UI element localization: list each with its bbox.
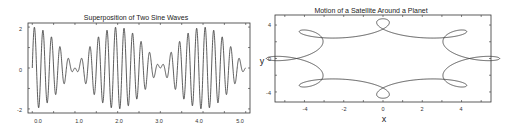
y-tick: 2 [19,26,22,32]
x-tick: 4.0 [195,118,203,124]
x-tick: 3.0 [155,118,163,124]
x-tick: 0.0 [34,118,42,124]
x-tick: 5.0 [236,118,244,124]
orbit-plot-frame [275,15,491,102]
figure: Superposition of Two Sine Waves 0.0 1.0 … [0,0,510,132]
sine-chart: Superposition of Two Sine Waves 0.0 1.0 … [17,14,250,124]
y-tick: -4 [266,90,271,96]
y-tick: 0 [268,56,271,62]
y-tick: -2 [17,107,22,113]
x-tick: -4 [303,106,308,112]
x-tick: 1.0 [75,118,83,124]
orbit-chart-title: Motion of a Satellite Around a Planet [314,7,427,14]
y-tick: 4 [268,22,271,28]
y-axis-label: y [260,56,265,66]
x-tick: -2 [342,106,347,112]
y-tick: 0 [19,67,22,73]
x-tick: 2.0 [115,118,123,124]
orbit-chart: Motion of a Satellite Around a Planet -4… [260,7,500,124]
x-axis-label: x [382,114,387,124]
x-tick: 2 [420,106,423,112]
sine-series-line [32,27,245,109]
x-tick: 4 [459,106,462,112]
orbit-ticks [275,15,491,102]
sine-chart-title: Superposition of Two Sine Waves [84,14,189,22]
x-tick: 0 [381,106,384,112]
orbit-series-line [266,19,499,98]
